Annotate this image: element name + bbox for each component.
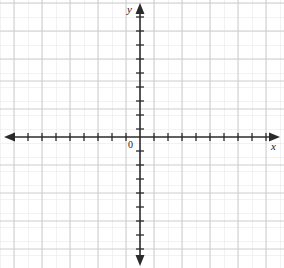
grid-canvas — [0, 0, 284, 268]
coordinate-plane: y x 0 — [0, 0, 284, 268]
y-axis-label: y — [127, 4, 132, 15]
x-axis-label: x — [271, 141, 276, 152]
origin-label: 0 — [128, 140, 133, 150]
